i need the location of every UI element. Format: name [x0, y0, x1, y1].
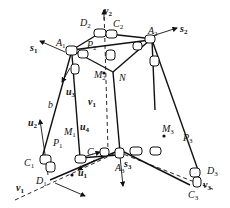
label-P3: P3 — [183, 133, 193, 145]
label-D3: D3 — [207, 166, 218, 178]
label-s1: s1 — [30, 43, 37, 55]
label-b: b — [48, 100, 53, 110]
label-C2: C2 — [113, 19, 123, 31]
label-P2: P2 — [87, 40, 97, 52]
label-M3: M3 — [162, 124, 174, 136]
label-u2: u2 — [28, 118, 37, 130]
label-v1-upper: v1 — [88, 97, 96, 109]
label-s3: s3 — [124, 159, 131, 171]
label-D1: D1 — [36, 176, 47, 188]
label-u4: u4 — [80, 122, 89, 134]
label-M2: M2 — [94, 70, 106, 82]
label-P1: P1 — [53, 138, 63, 150]
label-D2: D2 — [80, 18, 91, 30]
label-v2: v2 — [104, 6, 112, 18]
label-C-link: C — [87, 147, 94, 157]
label-A2: A2 — [148, 26, 158, 38]
label-u3: u3 — [66, 87, 75, 99]
label-s2: s2 — [180, 24, 187, 36]
diagram-canvas — [0, 0, 230, 208]
label-C3: C3 — [188, 190, 198, 202]
label-v3: v3 — [203, 180, 211, 192]
label-A1: A1 — [56, 38, 66, 50]
label-C1: C1 — [24, 158, 34, 170]
label-N: N — [119, 73, 126, 83]
label-u1: u1 — [78, 168, 87, 180]
label-M1: M1 — [64, 127, 76, 139]
label-v1-lower: v1 — [16, 183, 24, 195]
mechanism-diagram: A1 A2 A3 C1 C2 C3 D1 D2 D3 P1 P2 P3 M1 M… — [0, 0, 230, 208]
